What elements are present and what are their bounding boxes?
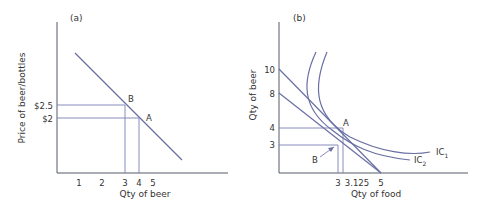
panel-b-x-tick: 5 (378, 178, 383, 188)
panel-b-label: (b) (293, 13, 306, 23)
panel-a-x-tick: 2 (99, 178, 104, 188)
panel-b-x-label: Qty of food (351, 189, 401, 199)
panel-a-x-tick: 5 (150, 178, 155, 188)
panel-b-y-tick: 10 (264, 65, 275, 75)
panel-a-x-tick: 1 (76, 178, 81, 188)
panel-b-y-tick: 4 (270, 123, 275, 133)
panel-b-ic2-label-text: IC (414, 155, 423, 165)
panel-b-indifference-curve-1 (318, 52, 430, 153)
panel-a: (a) Price of beer/bottles Qty of beer $2… (17, 13, 228, 199)
panel-a-y-label: Price of beer/bottles (17, 52, 27, 143)
panel-b-ic1-label: IC1 (436, 147, 448, 159)
panel-b-y-tick: 3 (270, 140, 275, 150)
panel-b-indifference-curve-2 (307, 52, 410, 160)
panel-b-ic2-label: IC2 (414, 155, 426, 167)
panel-b-y-tick: 8 (270, 89, 275, 99)
panel-a-y-tick: $2 (42, 114, 53, 124)
panel-a-x-label: Qty of beer (120, 189, 171, 199)
panel-b-arrowhead-icon (328, 147, 334, 152)
panel-b-y-label: Qty of beer (248, 69, 258, 120)
panel-a-demand-line (75, 53, 182, 160)
panel-b-ic1-subscript: 1 (444, 152, 448, 159)
panel-a-point-label-b: B (128, 94, 134, 104)
panel-a-x-tick: 3 (122, 178, 127, 188)
panel-a-y-tick: $2.5 (34, 101, 53, 111)
panel-a-point-label-a: A (146, 113, 152, 123)
panel-a-x-tick: 4 (136, 178, 141, 188)
panel-b-x-tick: 3 (335, 178, 340, 188)
panel-b: (b) Qty of beer Qty of food 10 8 4 3 3 3… (248, 13, 468, 199)
diagram-canvas: (a) Price of beer/bottles Qty of beer $2… (0, 0, 484, 215)
panel-b-point-label-b: B (312, 155, 318, 165)
panel-b-budget-line-2 (279, 93, 381, 173)
panel-a-label: (a) (70, 13, 83, 23)
panel-b-ic2-subscript: 2 (422, 160, 426, 167)
panel-b-ic1-label-text: IC (436, 147, 445, 157)
panel-b-point-label-a: A (343, 118, 349, 128)
panel-b-x-tick: 3.125 (345, 178, 369, 188)
